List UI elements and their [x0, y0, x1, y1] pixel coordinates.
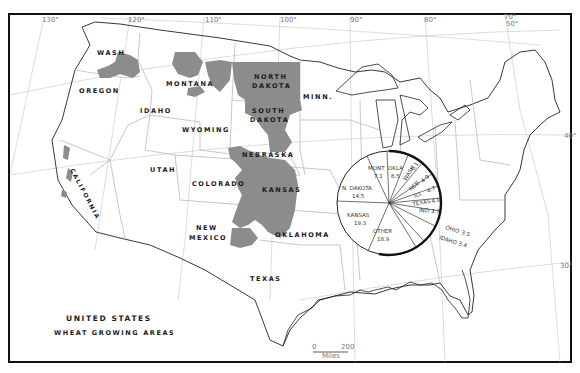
label-wash: WASH [97, 49, 125, 57]
pie-label-okla: OKLA [388, 165, 403, 171]
pie-value-kansas: 19.3 [354, 220, 367, 226]
label-texas: TEXAS [250, 275, 282, 283]
label-montana: MONTANA [166, 80, 214, 88]
pie-label-other: OTHER [373, 228, 392, 234]
label-colorado: COLORADO [192, 180, 246, 188]
label-nebraska: NEBRASKA [242, 151, 294, 159]
label-oregon: OREGON [79, 87, 120, 95]
label-new: NEW [196, 224, 218, 232]
scale-end: 200 [341, 343, 354, 351]
scale-unit: Miles [322, 352, 340, 360]
label-north: NORTH [254, 73, 288, 81]
lon-90: 90° [350, 16, 362, 24]
map-subtitle: WHEAT GROWING AREAS [54, 329, 175, 337]
label-dakota-s: DAKOTA [250, 116, 289, 124]
label-idaho: IDAHO [140, 107, 172, 115]
lon-120: 120° [128, 16, 145, 24]
label-dakota-n: DAKOTA [252, 82, 291, 90]
label-oklahoma: OKLAHOMA [275, 231, 330, 239]
pie-value-okla: 6.5 [391, 173, 400, 179]
lon-100: 100° [280, 16, 297, 24]
scale-start: 0 [312, 343, 316, 351]
lat-50: 50° [506, 20, 518, 28]
lat-40: 40° [564, 132, 576, 140]
map-title: UNITED STATES [66, 314, 152, 323]
pie-value-ind: 3.7 [431, 208, 441, 214]
pie-label-mont: MONT [368, 165, 385, 171]
lat-30: 30° [560, 262, 572, 270]
pie-value-ndakota: 14.5 [352, 193, 365, 199]
label-mexico: MEXICO [189, 234, 227, 242]
label-wyoming: WYOMING [182, 126, 230, 134]
label-utah: UTAH [150, 166, 176, 174]
label-minn: MINN. [303, 93, 333, 101]
pie-label-kansas: KANSAS [347, 212, 370, 218]
lon-110: 110° [205, 16, 222, 24]
label-south: SOUTH [252, 107, 285, 115]
lon-80: 80° [424, 16, 436, 24]
pie-value-mont: 7.1 [374, 173, 383, 179]
pie-label-ind: IND [419, 207, 429, 214]
wheat-map: WASH OREGON IDAHO MONTANA WYOMING UTAH C… [0, 0, 580, 373]
pie-label-ndakota: N. DAKOTA [342, 185, 372, 191]
label-kansas: KANSAS [262, 186, 302, 194]
pie-value-other: 18.9 [377, 236, 390, 242]
lon-130: 130° [42, 16, 59, 24]
